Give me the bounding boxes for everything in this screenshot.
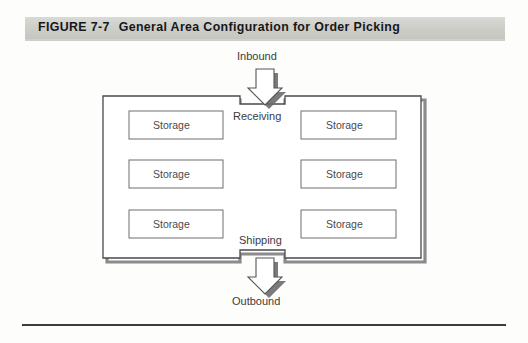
storage-label: Storage [153, 119, 190, 131]
storage-label: Storage [326, 119, 363, 131]
storage-label: Storage [326, 168, 363, 180]
outbound-label: Outbound [232, 295, 280, 307]
storage-label: Storage [153, 218, 190, 230]
inbound-label: Inbound [237, 50, 277, 62]
shipping-label: Shipping [239, 234, 282, 246]
storage-label: Storage [153, 168, 190, 180]
receiving-label: Receiving [233, 110, 281, 122]
bottom-divider-rule [22, 324, 506, 326]
storage-label: Storage [326, 218, 363, 230]
